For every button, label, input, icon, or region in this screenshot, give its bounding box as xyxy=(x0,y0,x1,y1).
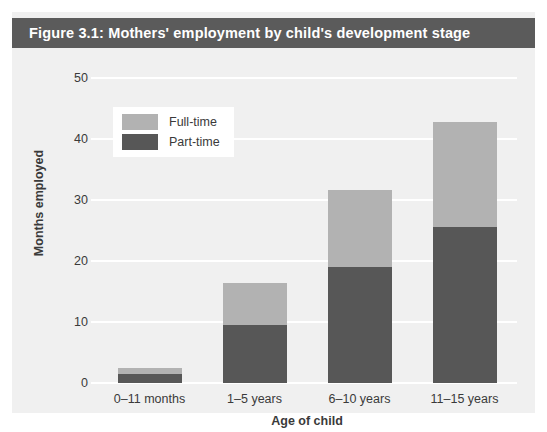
y-axis-tick xyxy=(91,138,97,140)
bar-group[interactable] xyxy=(223,283,287,383)
bar-segment-full-time[interactable] xyxy=(223,283,287,325)
bar-segment-part-time[interactable] xyxy=(328,267,392,384)
y-axis-title: Months employed xyxy=(32,133,46,273)
y-axis-tick-label: 40 xyxy=(74,132,88,146)
x-axis-title: Age of child xyxy=(97,414,517,428)
chart-container: Months employed 01020304050 0–11 months1… xyxy=(12,48,535,413)
bar-segment-part-time[interactable] xyxy=(433,227,497,383)
legend-label: Full-time xyxy=(169,115,217,129)
y-axis-tick xyxy=(91,321,97,323)
figure-title-bar: Figure 3.1: Mothers' employment by child… xyxy=(12,18,535,48)
y-axis-tick xyxy=(91,382,97,384)
figure-title: Figure 3.1: Mothers' employment by child… xyxy=(12,25,470,41)
legend-item[interactable]: Part-time xyxy=(122,134,220,150)
bar-group[interactable] xyxy=(118,368,182,383)
y-axis-tick-label: 30 xyxy=(74,193,88,207)
legend-swatch xyxy=(122,114,158,130)
legend-item[interactable]: Full-time xyxy=(122,114,220,130)
bar-group[interactable] xyxy=(433,122,497,383)
legend-swatch xyxy=(122,134,158,150)
y-axis-tick-label: 0 xyxy=(81,376,88,390)
y-axis-tick xyxy=(91,199,97,201)
bar-segment-part-time[interactable] xyxy=(118,374,182,383)
figure-panel: Figure 3.1: Mothers' employment by child… xyxy=(12,12,535,413)
x-axis-tick-label: 11–15 years xyxy=(400,392,530,406)
bar-group[interactable] xyxy=(328,190,392,383)
plot-area: 01020304050 0–11 months1–5 years6–10 yea… xyxy=(97,78,517,383)
bar-segment-part-time[interactable] xyxy=(223,325,287,383)
bar-segment-full-time[interactable] xyxy=(328,190,392,266)
y-axis-tick-label: 20 xyxy=(74,254,88,268)
y-axis-tick-label: 10 xyxy=(74,315,88,329)
chart-legend: Full-timePart-time xyxy=(113,107,234,157)
y-axis-tick xyxy=(91,260,97,262)
y-axis-tick-label: 50 xyxy=(74,71,88,85)
y-axis-tick xyxy=(91,77,97,79)
legend-label: Part-time xyxy=(169,135,220,149)
gridline xyxy=(97,77,517,79)
bar-segment-full-time[interactable] xyxy=(433,122,497,228)
